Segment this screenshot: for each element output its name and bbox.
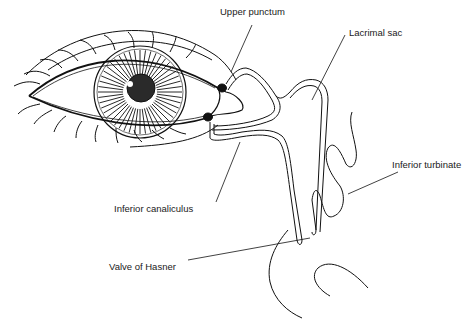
leader-upper-punctum: [231, 25, 252, 72]
label-valve-of-hasner: Valve of Hasner: [109, 262, 176, 272]
label-upper-punctum: Upper punctum: [220, 7, 285, 17]
common-canaliculus-2: [212, 96, 280, 130]
upper-lid-fold: [26, 31, 236, 80]
leader-inferior-canaliculus: [216, 142, 240, 202]
lower-punctum-dot: [204, 113, 213, 121]
label-inferior-turbinate: Inferior turbinate: [392, 160, 461, 170]
eye-upper-margin: [29, 60, 218, 96]
caruncle: [207, 88, 243, 118]
lower-lid-outer: [130, 125, 218, 147]
lacrimal-sac-wall: [290, 86, 322, 235]
leader-lines: [188, 25, 398, 260]
inferior-meatus-curve: [314, 264, 368, 296]
leader-lacrimal-sac: [312, 35, 345, 100]
nasal-floor-curve: [269, 230, 302, 318]
leader-valve-of-hasner: [188, 238, 310, 260]
label-lacrimal-sac: Lacrimal sac: [349, 28, 402, 38]
leader-inferior-turbinate: [348, 172, 398, 194]
label-inferior-canaliculus: Inferior canaliculus: [114, 204, 193, 214]
lower-eyelashes: [18, 104, 186, 143]
pupil-highlight: [127, 81, 133, 87]
upper-punctum-dot: [218, 84, 227, 92]
pupil: [127, 74, 155, 102]
